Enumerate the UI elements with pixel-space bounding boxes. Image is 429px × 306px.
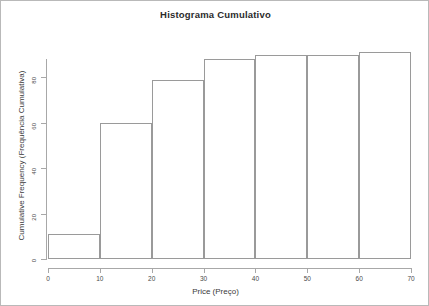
plot-area (48, 41, 411, 259)
x-axis-tick-label: 60 (356, 275, 363, 282)
x-axis-tick-label: 40 (252, 275, 259, 282)
histogram-bar (204, 59, 256, 259)
chart-canvas: Histograma Cumulativo Cumulative Frequen… (0, 0, 429, 306)
y-axis-tick-label: 60 (31, 123, 37, 130)
x-axis-tick-label: 70 (407, 275, 414, 282)
bar-series (48, 41, 411, 259)
x-axis-tick (411, 268, 412, 273)
y-axis-tick (41, 259, 46, 260)
y-axis-tick (41, 77, 46, 78)
x-axis-tick-label: 10 (96, 275, 103, 282)
x-axis-tick-label: 20 (148, 275, 155, 282)
y-axis-tick-label: 80 (31, 77, 37, 84)
histogram-bar (255, 55, 307, 259)
y-axis-line (46, 59, 47, 260)
y-axis-tick (41, 123, 46, 124)
x-axis-tick (100, 268, 101, 273)
x-axis-tick-label: 50 (304, 275, 311, 282)
histogram-bar (152, 80, 204, 259)
x-axis-line (48, 268, 411, 269)
x-axis-tick (307, 268, 308, 273)
x-axis-tick (48, 268, 49, 273)
x-axis-tick (152, 268, 153, 273)
x-axis-tick-label: 30 (200, 275, 207, 282)
x-axis-tick (359, 268, 360, 273)
x-axis-tick-label: 0 (46, 275, 50, 282)
x-axis-tick (204, 268, 205, 273)
x-axis-tick (255, 268, 256, 273)
y-axis-tick-label: 20 (31, 214, 37, 221)
histogram-bar (307, 55, 359, 259)
y-axis-tick (41, 168, 46, 169)
y-axis-tick-label: 40 (31, 168, 37, 175)
y-axis-tick-label: 0 (31, 259, 37, 262)
y-axis-tick (41, 214, 46, 215)
y-axis-title: Cumulative Frequency (Frequência Cumulat… (17, 41, 26, 271)
x-axis-title: Price (Preço) (1, 287, 429, 296)
chart-title: Histograma Cumulativo (1, 9, 429, 20)
histogram-bar (359, 52, 411, 259)
histogram-bar (100, 123, 152, 259)
histogram-bar (48, 234, 100, 259)
